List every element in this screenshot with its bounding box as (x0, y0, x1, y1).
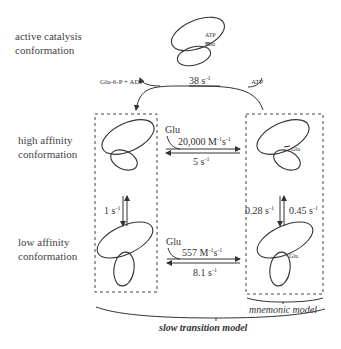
high-glu-ligand-label: Glu (165, 124, 180, 135)
high-affinity-binding: Glu 20,000 M-1s-1 5 s-1 (165, 124, 240, 167)
svg-text:conformation: conformation (15, 44, 75, 56)
high-forward-rate: 20,000 M-1s-1 (178, 136, 231, 147)
svg-text:conformation: conformation (18, 250, 78, 262)
products-label: Glu-6-P + ADP (100, 78, 143, 86)
catalysis-arc: Glu-6-P + ADP 38 s-1 ATP (100, 75, 264, 110)
low-affinity-free-enzyme (92, 215, 158, 288)
svg-text:low affinity: low affinity (18, 236, 70, 248)
active-enzyme-shape: ATP Glu (167, 11, 229, 70)
right-up-rate: 0.45 s-1 (289, 205, 318, 216)
svg-text:high affinity: high affinity (18, 134, 73, 146)
right-conformational-transition: 0.28 s-1 0.45 s-1 (245, 196, 318, 226)
high-affinity-bound-enzyme: Glu (252, 112, 315, 174)
right-down-rate: 0.28 s-1 (245, 205, 274, 216)
svg-text:active catalysis: active catalysis (15, 30, 82, 42)
low-bound-glu-label: Glu (289, 253, 298, 259)
low-reverse-rate: 8.1 s-1 (193, 267, 217, 278)
atp-substrate-label: ATP (251, 78, 264, 86)
svg-text:conformation: conformation (18, 148, 78, 160)
high-reverse-rate: 5 s-1 (193, 156, 209, 167)
low-affinity-binding: Glu 557 M-1s-1 8.1 s-1 (166, 236, 240, 278)
left-conformational-transition: 1 s-1 (104, 196, 127, 226)
row-label-active: active catalysis conformation (15, 30, 82, 56)
high-affinity-free-enzyme (97, 112, 160, 174)
active-atp-label: ATP (205, 32, 216, 38)
hexokinase-kinetic-diagram: active catalysis conformation high affin… (0, 0, 341, 349)
low-forward-rate: 557 M-1s-1 (182, 247, 222, 258)
active-glu-label: Glu (206, 41, 215, 47)
high-bound-glu-label: Glu (291, 146, 300, 152)
low-glu-ligand-label: Glu (166, 236, 181, 247)
slow-transition-model-label: slow transition model (158, 322, 248, 333)
low-affinity-bound-enzyme: Glu (252, 215, 318, 288)
catalysis-rate: 38 s-1 (189, 75, 210, 86)
left-transition-rate: 1 s-1 (104, 205, 120, 216)
mnemonic-model-label: mnemonic model (249, 304, 317, 315)
row-label-high-affinity: high affinity conformation (18, 134, 78, 160)
row-label-low-affinity: low affinity conformation (18, 236, 78, 262)
